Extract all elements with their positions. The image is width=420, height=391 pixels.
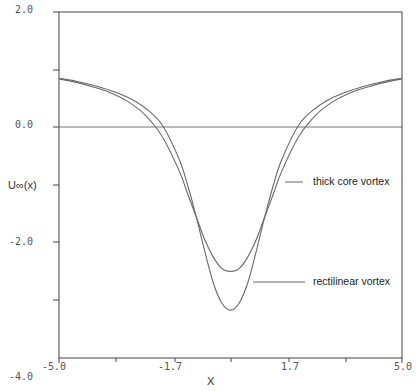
x-tick-label-1-7: 1.7 (281, 361, 299, 372)
y-tick-label-2: 2.0 (15, 4, 33, 15)
y-ticks (53, 12, 59, 300)
x-ticks (59, 358, 402, 363)
chart: 2.0 0.0 -2.0 -4.0 -5.0 -1.7 1.7 5.0 X U∞… (0, 0, 420, 391)
x-tick-label-neg5: -5.0 (42, 361, 66, 372)
x-tick-label-neg1-7: -1.7 (158, 361, 182, 372)
y-tick-label-0: 0.0 (15, 119, 33, 130)
x-tick-label-5: 5.0 (394, 361, 412, 372)
x-axis-label: X (207, 375, 215, 387)
y-tick-label-neg4: -4.0 (9, 371, 33, 382)
rectilinear-annotation: rectilinear vortex (313, 275, 391, 287)
y-tick-label-neg2: -2.0 (9, 236, 33, 247)
y-axis-label: U∞(x) (8, 179, 37, 191)
thick-core-annotation: thick core vortex (313, 175, 390, 187)
